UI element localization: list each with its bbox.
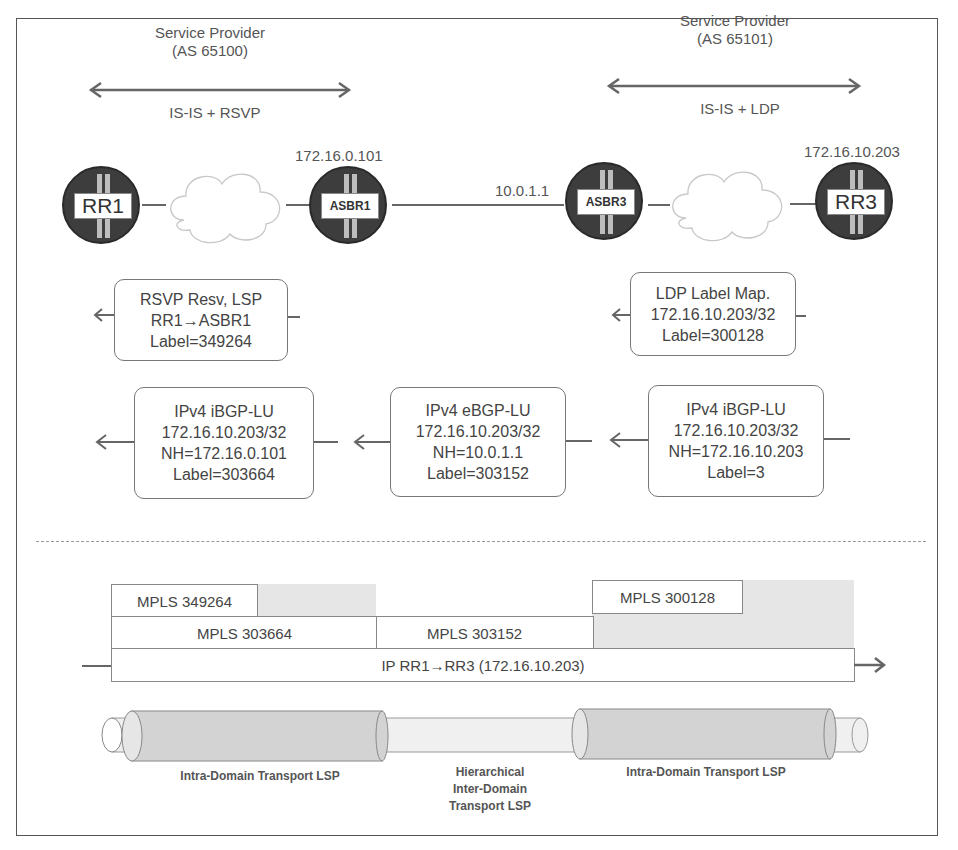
- domain-right-title-line2: (AS 65101): [645, 30, 825, 48]
- asbr1-ip: 172.16.0.101: [295, 147, 383, 164]
- label-mpls-303152: MPLS 303152: [376, 616, 594, 650]
- label-mpls-300128: MPLS 300128: [592, 580, 743, 614]
- rsvp-resv-message: RSVP Resv, LSP RR1→ASBR1 Label=349264: [114, 279, 288, 361]
- bgp2-tail-line: [824, 438, 850, 440]
- bgp0-tail-line: [314, 441, 338, 443]
- bgp1-tail-line: [566, 440, 592, 442]
- bgp-lu-message-asbr1: IPv4 iBGP-LU 172.16.10.203/32 NH=172.16.…: [134, 387, 314, 499]
- arrow-right-icon: [854, 656, 888, 674]
- section-divider: [36, 541, 926, 542]
- router-rr3-label: RR3: [827, 189, 885, 215]
- bgp0-line1: IPv4 iBGP-LU: [135, 401, 313, 422]
- domain-left-title-line2: (AS 65100): [120, 42, 300, 60]
- ldp-tail-line: [796, 315, 806, 317]
- arrow-left-icon: [92, 308, 114, 322]
- packet-tail-line: [82, 665, 112, 667]
- bgp0-line2: 172.16.10.203/32: [135, 422, 313, 443]
- domain-left-title: Service Provider (AS 65100): [120, 24, 300, 60]
- bgp1-line1: IPv4 eBGP-LU: [391, 400, 565, 421]
- bgp2-line3: NH=172.16.10.203: [649, 441, 823, 462]
- arrow-left-icon: [610, 308, 632, 322]
- rsvp-line2: RR1→ASBR1: [115, 310, 287, 331]
- bgp0-line3: NH=172.16.0.101: [135, 443, 313, 464]
- cloud-icon: [664, 160, 792, 246]
- lsp-center-line1: Hierarchical: [420, 764, 560, 781]
- label-mpls-349264: MPLS 349264: [111, 584, 258, 618]
- bgp-lu-message-rr3: IPv4 iBGP-LU 172.16.10.203/32 NH=172.16.…: [648, 385, 824, 497]
- bgp0-line4: Label=303664: [135, 464, 313, 485]
- bgp1-line3: NH=10.0.1.1: [391, 442, 565, 463]
- bgp2-line4: Label=3: [649, 462, 823, 483]
- router-rr1-label: RR1: [74, 193, 132, 219]
- domain-right-protocols: IS-IS + LDP: [680, 100, 800, 117]
- router-asbr1: ASBR1: [309, 166, 387, 244]
- domain-right-title: Service Provider (AS 65101): [645, 12, 825, 48]
- lsp-label-center: Hierarchical Inter-Domain Transport LSP: [420, 764, 560, 815]
- domain-right-title-line1: Service Provider: [645, 12, 825, 30]
- cloud-icon: [162, 162, 290, 248]
- rr3-ip: 172.16.10.203: [804, 143, 900, 160]
- router-rr1: RR1: [62, 166, 140, 244]
- asbr3-ip: 10.0.1.1: [495, 182, 549, 199]
- ldp-line1: LDP Label Map.: [631, 283, 795, 304]
- domain-right-span-arrow-icon: [603, 76, 865, 96]
- lsp-center-line2: Inter-Domain: [420, 781, 560, 798]
- router-asbr1-label: ASBR1: [321, 193, 379, 219]
- bgp1-line4: Label=303152: [391, 463, 565, 484]
- arrow-left-icon: [94, 434, 134, 450]
- domain-left-protocols: IS-IS + RSVP: [150, 104, 280, 121]
- arrow-left-icon: [608, 432, 648, 448]
- lsp-label-left: Intra-Domain Transport LSP: [160, 768, 360, 785]
- link-asbr1-asbr3: [392, 204, 564, 206]
- bgp2-line2: 172.16.10.203/32: [649, 420, 823, 441]
- router-asbr3: ASBR3: [565, 162, 643, 240]
- link-cloud-rr3: [790, 203, 816, 205]
- bgp-lu-message-asbr3: IPv4 eBGP-LU 172.16.10.203/32 NH=10.0.1.…: [390, 387, 566, 497]
- domain-left-title-line1: Service Provider: [120, 24, 300, 42]
- lsp-center-line3: Transport LSP: [420, 798, 560, 815]
- arrow-left-icon: [352, 434, 392, 450]
- ldp-line2: 172.16.10.203/32: [631, 304, 795, 325]
- rsvp-tail-line: [288, 316, 300, 318]
- rsvp-line1: RSVP Resv, LSP: [115, 289, 287, 310]
- router-asbr3-label: ASBR3: [577, 189, 635, 215]
- ip-payload: IP RR1→RR3 (172.16.10.203): [111, 648, 855, 682]
- ldp-label-mapping-message: LDP Label Map. 172.16.10.203/32 Label=30…: [630, 272, 796, 356]
- domain-left-span-arrow-icon: [85, 80, 355, 100]
- stack-shade-left: [256, 584, 376, 616]
- rsvp-line3: Label=349264: [115, 331, 287, 352]
- bgp2-line1: IPv4 iBGP-LU: [649, 399, 823, 420]
- bgp1-line2: 172.16.10.203/32: [391, 421, 565, 442]
- ldp-line3: Label=300128: [631, 325, 795, 346]
- label-mpls-303664: MPLS 303664: [111, 616, 378, 650]
- lsp-label-right: Intra-Domain Transport LSP: [606, 764, 806, 781]
- router-rr3: RR3: [815, 162, 893, 240]
